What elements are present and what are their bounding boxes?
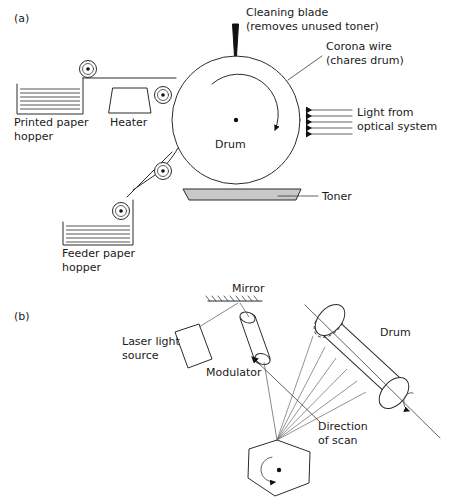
feeder-hopper-label-line2: hopper xyxy=(62,261,101,274)
printed-hopper-label-line2: hopper xyxy=(14,130,53,143)
light-beams-group xyxy=(306,110,352,134)
drum-cylinder xyxy=(309,299,414,414)
cleaning-blade-label-line1: Cleaning blade xyxy=(246,6,328,19)
drum-label: Drum xyxy=(215,138,246,151)
drum-axle xyxy=(305,305,440,438)
polygon-mirror xyxy=(248,440,310,496)
drum-label-b: Drum xyxy=(380,326,411,339)
direction-of-scan-arrow xyxy=(252,357,320,422)
roller-feed xyxy=(113,203,130,220)
panel-a: (a) Cleaning blade (removes unused toner… xyxy=(14,6,437,274)
heater-label: Heater xyxy=(110,116,148,129)
roller-exit xyxy=(80,61,97,78)
modulator-label: Modulator xyxy=(206,366,262,379)
drum-center-dot xyxy=(234,118,238,122)
scan-label-line1: Direction xyxy=(318,420,368,433)
mirror-label: Mirror xyxy=(232,282,265,295)
beam-modulator-to-polygon xyxy=(264,362,277,440)
toner-tray xyxy=(183,189,301,200)
feeder-paper-stack xyxy=(66,226,130,242)
printed-paper-stack xyxy=(20,89,80,109)
panel-b: (b) Mirror xyxy=(14,282,440,496)
roller-transfer-upper xyxy=(155,87,172,104)
roller-transfer-lower xyxy=(155,163,172,180)
panel-b-label: (b) xyxy=(14,310,30,323)
corona-wire-label-line1: Corona wire xyxy=(326,40,392,53)
cleaning-blade xyxy=(233,24,239,56)
printed-hopper-label-line1: Printed paper xyxy=(14,116,89,129)
heater xyxy=(109,88,151,113)
panel-a-label: (a) xyxy=(14,12,29,25)
corona-wire-label-line2: (chares drum) xyxy=(326,54,404,67)
cleaning-blade-label-line2: (removes unused toner) xyxy=(246,20,379,33)
figure-root: (a) Cleaning blade (removes unused toner… xyxy=(0,0,451,497)
polygon-mirror-center-dot xyxy=(277,468,281,472)
light-label-line1: Light from xyxy=(357,106,414,119)
mirror xyxy=(206,296,262,301)
laser-label-line1: Laser light xyxy=(122,335,180,348)
laser-label-line2: source xyxy=(122,349,159,362)
feeder-hopper-label-line1: Feeder paper xyxy=(62,247,136,260)
toner-label: Toner xyxy=(321,190,352,203)
scan-label-line2: of scan xyxy=(318,434,358,447)
corona-wire-leader xyxy=(288,56,322,80)
modulator xyxy=(238,310,271,367)
laser-printer-diagram: (a) Cleaning blade (removes unused toner… xyxy=(0,0,451,497)
mirror-hatching xyxy=(206,296,258,301)
printed-paper-hopper xyxy=(17,78,83,114)
beam-laser-to-mirror xyxy=(199,303,238,327)
drum-rotation-arrow xyxy=(212,74,278,130)
light-label-line2: optical system xyxy=(357,120,437,133)
laser-light-source xyxy=(175,324,212,368)
